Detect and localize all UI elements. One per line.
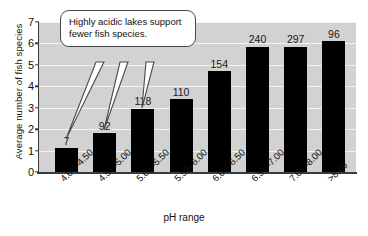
gridline [39,65,356,66]
bar: 297 [284,47,307,172]
bar-value-label: 96 [328,29,340,40]
bar-value-label: 92 [99,121,111,132]
y-tick-mark [35,150,39,151]
y-tick-label: 3 [28,102,34,113]
y-tick-mark [35,64,39,65]
bar: 240 [246,47,269,172]
gridline [39,108,356,109]
bar-value-label: 154 [211,59,229,70]
y-tick-label: 7 [28,17,34,28]
bar-value-label: 240 [249,34,267,45]
y-tick-label: 1 [28,145,34,156]
y-tick-mark [35,107,39,108]
y-tick-label: 2 [28,124,34,135]
y-tick-label: 4 [28,81,34,92]
bar-value-label: 118 [135,96,152,107]
bar-value-label: 110 [173,87,190,98]
y-axis-title: Average number of fish species [13,12,24,172]
acidity-callout: Highly acidic lakes support fewer fish s… [60,10,196,47]
fish-species-ph-bar-chart: Average number of fish species 01234567 … [0,0,368,236]
gridline [39,86,356,87]
x-axis-line [37,172,357,174]
y-tick-label: 5 [28,59,34,70]
y-tick-mark [35,128,39,129]
y-tick-mark [35,86,39,87]
bar: 96 [322,41,345,172]
bar-value-label: 297 [287,34,305,45]
x-axis-title: pH range [0,212,368,223]
y-tick-mark [35,43,39,44]
gridline [39,129,356,130]
y-tick-label: 0 [28,167,34,178]
y-tick-mark [35,21,39,22]
bar-value-label: 7 [64,136,70,147]
y-tick-label: 6 [28,38,34,49]
